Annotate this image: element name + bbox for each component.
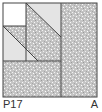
quilt-block-diagram [0,0,102,98]
block-code-label: P17 [3,98,23,111]
bottom-panel [3,61,61,97]
right-panel [61,3,97,97]
white-square [3,3,26,26]
block-mark-label: A [91,98,98,111]
